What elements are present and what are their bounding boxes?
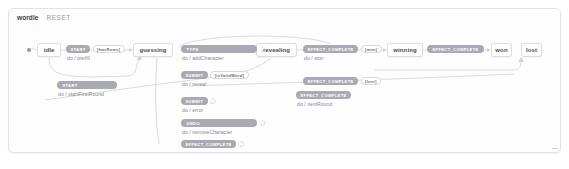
transition-guessing-effect-complete[interactable]: EFFECT_COMPLETE [181, 140, 246, 148]
guard-chip-won: [won] [361, 45, 382, 53]
machine-panel: wordle RESET [8, 8, 561, 153]
transition-guessing-reveal[interactable]: SUBMIT [isValidWord] do / reveal [181, 71, 249, 87]
transition-guessing-type[interactable]: TYPE do / addCharacter [181, 45, 267, 61]
guard-chip-lost: [lost] [361, 77, 381, 85]
transition-idle-prefill[interactable]: START [hasRows] do / prefill [66, 45, 125, 61]
transition-revealing-lost[interactable]: EFFECT_COMPLETE [lost] [303, 77, 381, 85]
state-label-revealing: revealing [263, 47, 290, 53]
action-label-prefill: do / prefill [66, 55, 125, 61]
state-label-guessing: guessing [139, 47, 166, 53]
action-label-start-first-round: do / startFirstRound [57, 91, 117, 97]
event-chip-effect-complete-next-round[interactable]: EFFECT_COMPLETE [296, 91, 351, 99]
action-label-add-character: do / addCharacter [181, 55, 267, 61]
self-loop-icon-type [260, 46, 267, 53]
resize-grip[interactable] [550, 143, 558, 151]
transition-revealing-next-round[interactable]: EFFECT_COMPLETE do / nextRound [296, 91, 351, 107]
action-label-won: do / won [303, 55, 382, 61]
event-chip-effect-complete-lost[interactable]: EFFECT_COMPLETE [303, 77, 358, 85]
statechart-visualizer: wordle RESET [0, 0, 569, 169]
state-node-won[interactable]: won [491, 43, 512, 57]
edge-guessing-selfloop-spine [156, 58, 159, 144]
arrowhead-revealing-lost [518, 57, 524, 62]
edge-revealing-lost [375, 60, 521, 70]
diagram-canvas[interactable]: idle guessing revealing winning won lost [9, 26, 560, 152]
state-label-lost: lost [526, 47, 537, 53]
reset-button[interactable]: RESET [47, 14, 71, 21]
state-node-lost[interactable]: lost [521, 43, 542, 57]
event-chip-start-2[interactable]: START [57, 81, 117, 89]
edge-idle-guessing-firstround [49, 58, 139, 77]
event-chip-submit-2[interactable]: SUBMIT [181, 97, 208, 105]
event-chip-effect-complete-won[interactable]: EFFECT_COMPLETE [303, 45, 358, 53]
initial-state-dot [27, 48, 31, 52]
state-label-winning: winning [393, 47, 416, 53]
guard-chip-is-valid-word: [isValidWord] [210, 71, 248, 79]
action-label-reveal: do / reveal [181, 81, 249, 87]
event-chip-submit[interactable]: SUBMIT [181, 71, 208, 79]
self-loop-icon-effect-complete [239, 141, 246, 148]
state-label-idle: idle [44, 47, 55, 53]
event-chip-effect-complete-guessing[interactable]: EFFECT_COMPLETE [181, 140, 236, 148]
event-chip-start[interactable]: START [66, 45, 90, 53]
event-chip-type[interactable]: TYPE [181, 45, 257, 53]
guard-chip-has-rows: [hasRows] [93, 45, 125, 53]
action-label-next-round: do / nextRound [296, 101, 351, 107]
machine-name: wordle [17, 14, 39, 21]
state-label-won: won [495, 47, 507, 53]
transition-winning-won[interactable]: EFFECT_COMPLETE [427, 45, 484, 53]
state-node-winning[interactable]: winning [387, 43, 423, 57]
transition-guessing-undo[interactable]: UNDO do / removeCharacter [181, 119, 267, 135]
state-node-guessing[interactable]: guessing [133, 43, 173, 57]
event-chip-undo[interactable]: UNDO [181, 119, 257, 127]
transition-idle-start-first-round[interactable]: START do / startFirstRound [57, 81, 117, 97]
transition-revealing-won[interactable]: EFFECT_COMPLETE [won] do / won [303, 45, 382, 61]
self-loop-icon-submit [210, 98, 217, 105]
event-chip-effect-complete-winning[interactable]: EFFECT_COMPLETE [427, 45, 484, 53]
machine-header: wordle RESET [9, 9, 560, 26]
transition-guessing-error[interactable]: SUBMIT do / error [181, 97, 217, 113]
state-node-idle[interactable]: idle [37, 43, 61, 57]
self-loop-icon-undo [260, 120, 267, 127]
action-label-remove-character: do / removeCharacter [181, 129, 267, 135]
action-label-error: do / error [181, 107, 217, 113]
